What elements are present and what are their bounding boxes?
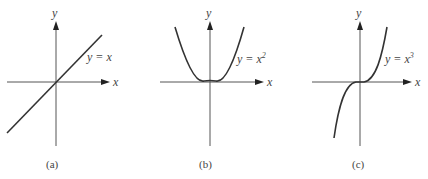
panel-c: x y y = x3 (c) bbox=[312, 6, 421, 171]
x-axis-label: x bbox=[266, 75, 273, 89]
y-axis-arrow-icon bbox=[53, 21, 59, 30]
x-axis-label: x bbox=[112, 75, 119, 89]
x-axis-arrow-icon bbox=[403, 79, 412, 85]
panel-b: x y y = x2 (b) bbox=[160, 6, 273, 171]
y-axis-arrow-icon bbox=[357, 21, 363, 30]
equation-label: y = x3 bbox=[384, 51, 414, 66]
caption-a: (a) bbox=[46, 158, 59, 171]
caption-c: (c) bbox=[352, 158, 365, 171]
x-axis-label: x bbox=[414, 75, 421, 89]
function-graphs-figure: x y y = x (a) x y y = x2 (b) x y y = x3 … bbox=[0, 0, 428, 179]
panel-a: x y y = x (a) bbox=[7, 6, 119, 171]
equation-label: y = x bbox=[86, 50, 112, 64]
x-axis-arrow-icon bbox=[101, 79, 110, 85]
y-axis-label: y bbox=[51, 6, 58, 20]
y-axis-label: y bbox=[205, 6, 212, 20]
equation-label: y = x2 bbox=[236, 51, 266, 66]
y-axis-arrow-icon bbox=[207, 21, 213, 30]
y-axis-label: y bbox=[355, 6, 362, 20]
caption-b: (b) bbox=[199, 158, 212, 171]
x-axis-arrow-icon bbox=[255, 79, 264, 85]
